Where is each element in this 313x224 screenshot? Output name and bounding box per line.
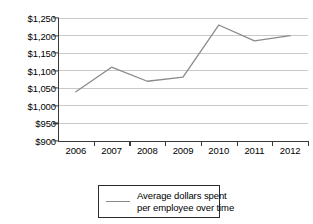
legend-label-line1: Average dollars spent (137, 190, 227, 201)
legend-label: Average dollars spent per employee over … (137, 190, 234, 214)
series-line-average-dollars-spent (76, 25, 290, 92)
legend-label-line2: per employee over time (137, 202, 234, 213)
legend-line-swatch-icon (106, 201, 130, 202)
series-line-chart (0, 0, 313, 170)
line-chart: $1,250$1,200$1,150$1,100$1,050$1,000$950… (0, 0, 313, 224)
chart-legend: Average dollars spent per employee over … (98, 185, 220, 218)
plot-area: $1,250$1,200$1,150$1,100$1,050$1,000$950… (0, 0, 313, 170)
